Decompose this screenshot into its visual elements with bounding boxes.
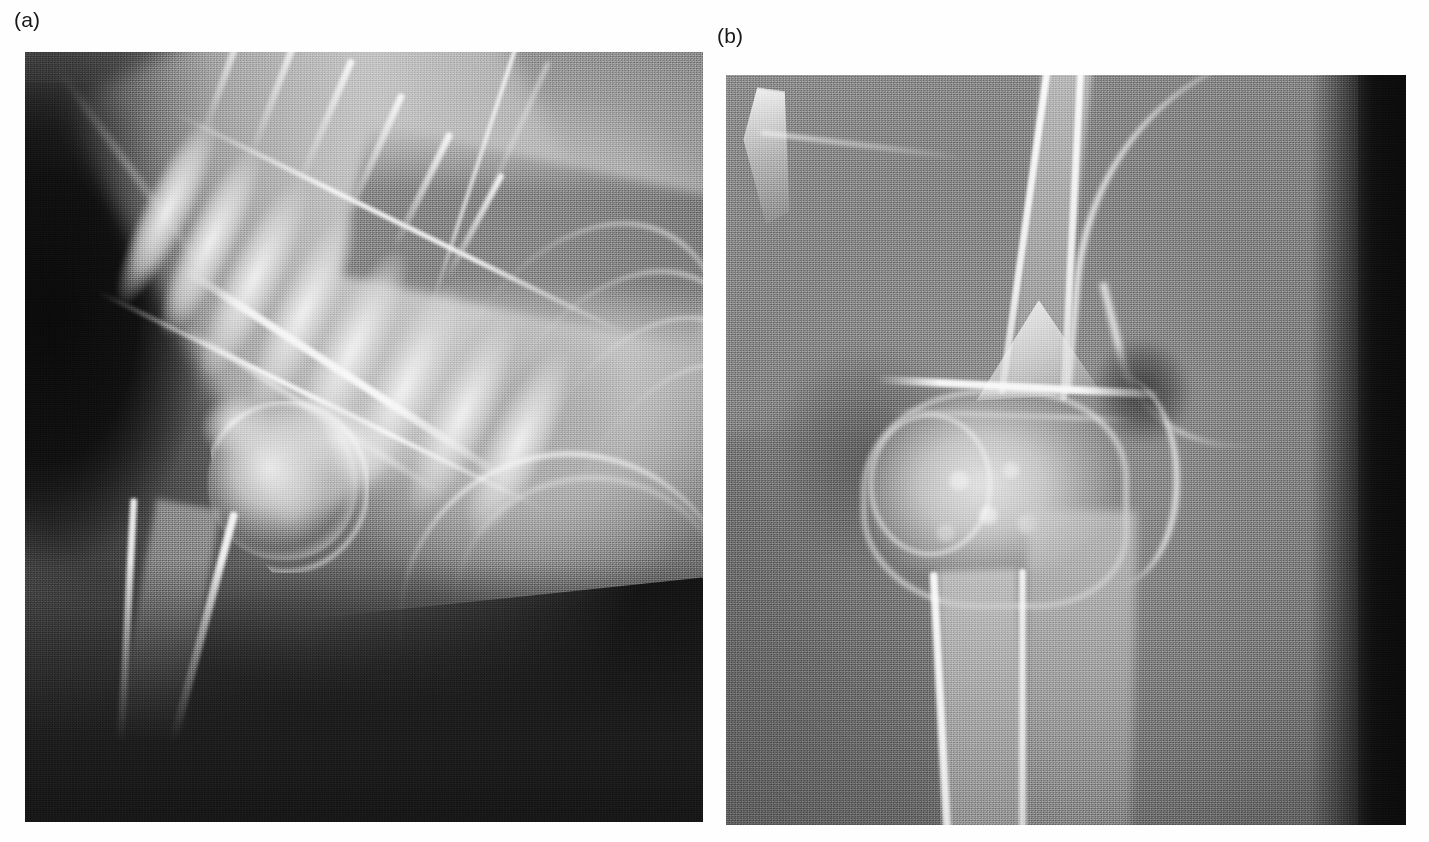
radiograph-panel-b[interactable]	[726, 75, 1406, 825]
panel-b-dark-right-edge	[1358, 75, 1406, 825]
figure-root: (a)	[0, 0, 1429, 842]
panel-label-a: (a)	[14, 8, 40, 32]
panel-b-proximal-radius	[916, 568, 1062, 825]
radiograph-panel-a[interactable]	[25, 52, 703, 822]
panel-label-b: (b)	[717, 24, 743, 48]
panel-a-dark-lower-band	[25, 560, 703, 822]
